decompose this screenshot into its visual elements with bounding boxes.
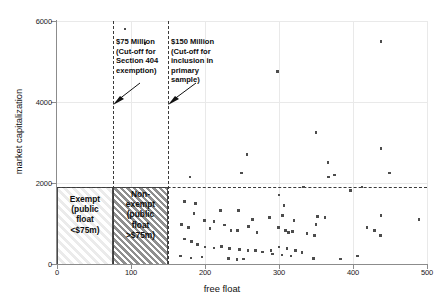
x-axis-title: free float [172,283,272,294]
y-tick-label: 6000 [22,17,52,26]
x-axis [56,264,428,265]
x-tick-label: 400 [338,268,368,277]
y-tick-label: 2000 [22,179,52,188]
x-tick-label: 500 [412,268,442,277]
arrow-75m [0,0,444,306]
x-tick-label: 100 [116,268,146,277]
x-tick-label: 300 [264,268,294,277]
x-tick-label: 200 [190,268,220,277]
x-tick-label: 0 [42,268,72,277]
chart-figure: Exempt (public float <$75m) Non- exempt … [0,0,444,306]
y-axis-title: market capitalization [13,72,24,192]
y-axis [56,20,57,265]
y-tick-label: 4000 [22,98,52,107]
